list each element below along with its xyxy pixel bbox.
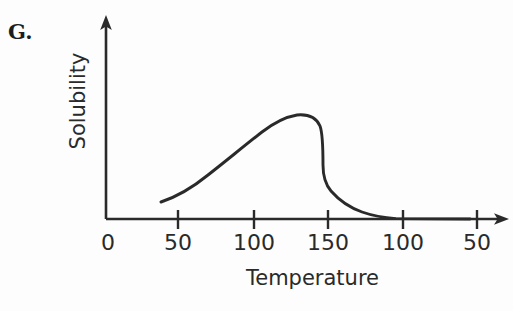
x-tick-label-5: 50 xyxy=(463,232,491,254)
y-axis-title: Solubility xyxy=(68,6,89,196)
x-tick-label-1: 50 xyxy=(164,232,192,254)
y-axis-group xyxy=(100,15,112,219)
x-axis-title-text: Temperature xyxy=(246,266,379,290)
x-tick-label-2: 100 xyxy=(233,232,275,254)
solubility-curve xyxy=(161,115,470,219)
x-tick-label-0: 0 xyxy=(101,232,115,254)
x-tick-label-3: 150 xyxy=(307,232,349,254)
x-tick-label-4: 100 xyxy=(382,232,424,254)
figure-container: G. Solubility Temperature 0 50 100 150 1… xyxy=(0,0,513,311)
x-axis-title: Temperature xyxy=(0,268,513,289)
